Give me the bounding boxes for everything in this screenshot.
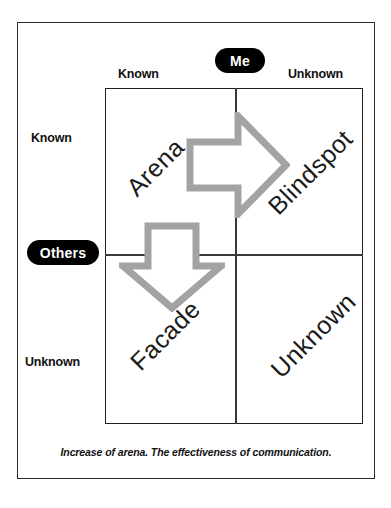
axis-label-me-unknown: Unknown bbox=[288, 67, 343, 81]
badge-others: Others bbox=[27, 240, 99, 265]
arrow-right-icon bbox=[186, 112, 290, 218]
arrow-down-icon bbox=[119, 222, 225, 312]
johari-window-diagram: Known Unknown Known Unknown Me Others Ar… bbox=[0, 0, 391, 508]
badge-me: Me bbox=[215, 48, 265, 73]
axis-label-others-known: Known bbox=[31, 131, 72, 145]
axis-label-others-unknown: Unknown bbox=[25, 355, 80, 369]
axis-label-me-known: Known bbox=[118, 67, 159, 81]
diagram-caption: Increase of arena. The effectiveness of … bbox=[17, 446, 375, 458]
